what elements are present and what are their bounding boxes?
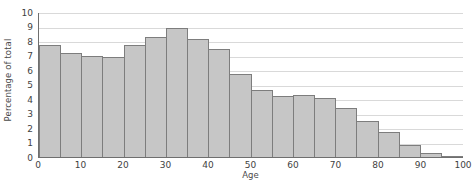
histogram-bar — [420, 153, 442, 157]
y-axis-title-text: Percentage of total — [3, 39, 13, 122]
y-axis-tick-label: 0 — [15, 154, 33, 163]
histogram-bar — [335, 108, 357, 157]
histogram-bar — [208, 49, 230, 157]
y-axis-tick-label: 3 — [15, 110, 33, 119]
histogram-bar — [272, 96, 294, 157]
y-axis-tick-label: 9 — [15, 23, 33, 32]
x-axis-tick-label: 90 — [415, 160, 426, 170]
plot-area — [38, 13, 463, 158]
x-axis-tick-label: 50 — [245, 160, 256, 170]
y-axis-title: Percentage of total — [0, 0, 16, 160]
histogram-bar — [399, 145, 421, 157]
x-axis-tick-label: 70 — [330, 160, 341, 170]
histogram-bar — [314, 98, 336, 157]
histogram-bar — [81, 56, 103, 158]
x-axis-tick-label: 10 — [75, 160, 86, 170]
x-axis-tick-label: 0 — [35, 160, 41, 170]
x-axis-tick-label: 20 — [117, 160, 128, 170]
histogram-bar — [145, 37, 167, 157]
histogram-bar — [60, 53, 82, 157]
histogram-bar — [441, 156, 463, 157]
histogram-bar — [229, 74, 251, 157]
histogram-bar — [39, 45, 61, 157]
x-axis-tick-label: 30 — [160, 160, 171, 170]
histogram-bar — [378, 132, 400, 157]
y-axis-tick-label: 6 — [15, 67, 33, 76]
bar-series — [39, 13, 463, 157]
histogram-bar — [293, 95, 315, 157]
histogram-bar — [356, 121, 378, 157]
y-axis-tick-label: 10 — [15, 9, 33, 18]
y-axis-tick-label: 4 — [15, 96, 33, 105]
gridline — [39, 158, 463, 159]
histogram-bar — [166, 28, 188, 157]
y-axis-tick-label: 1 — [15, 139, 33, 148]
y-axis-tick-label: 5 — [15, 81, 33, 90]
y-axis-tick-label: 8 — [15, 38, 33, 47]
histogram-bar — [124, 45, 146, 157]
histogram-bar — [251, 90, 273, 157]
y-axis-tick-label: 7 — [15, 52, 33, 61]
x-axis-tick-label: 60 — [287, 160, 298, 170]
histogram-bar — [187, 39, 209, 157]
y-axis-tick-labels: 109876543210 — [16, 0, 36, 182]
x-axis-title: Age — [38, 170, 463, 180]
y-axis-tick-label: 2 — [15, 125, 33, 134]
x-axis-tick-label: 100 — [454, 160, 471, 170]
x-axis-tick-label: 40 — [202, 160, 213, 170]
histogram-bar — [102, 57, 124, 157]
x-axis-tick-label: 80 — [372, 160, 383, 170]
